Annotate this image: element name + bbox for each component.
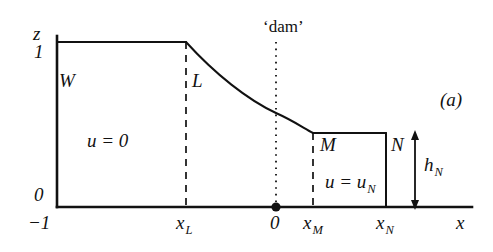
x-M-tick-label: xM: [303, 213, 323, 236]
x-L-tick-subscript: L: [184, 223, 192, 237]
point-label-N: N: [391, 135, 404, 154]
h-N-arrowhead-up-icon: [411, 130, 419, 140]
point-label-W: W: [59, 71, 75, 90]
velocity-zero-annotation: u = 0: [87, 131, 128, 150]
x-N-tick-subscript: N: [384, 223, 393, 237]
x-axis-label: x: [456, 213, 464, 232]
x-tick-label-zero: 0: [270, 213, 280, 232]
point-label-L: L: [192, 71, 203, 90]
panel-label: (a): [440, 90, 462, 109]
depth-hN-label: hN: [424, 155, 443, 178]
x-L-tick-label: xL: [176, 213, 192, 236]
x-tick-label-minus-one: −1: [28, 213, 50, 232]
h-N-arrowhead-down-icon: [411, 200, 419, 210]
velocity-uN-subscript: N: [366, 182, 375, 196]
velocity-uN-base: u = u: [325, 171, 366, 192]
point-label-M: M: [320, 135, 336, 154]
depth-hN-subscript: N: [434, 165, 443, 179]
velocity-uN-annotation: u = uN: [325, 172, 376, 195]
z-tick-label-zero: 0: [34, 185, 44, 204]
x-N-tick-label: xN: [376, 213, 394, 236]
depth-hN-base: h: [424, 154, 434, 175]
origin-point-marker: [271, 202, 280, 211]
figure-drawing-canvas: [0, 0, 493, 252]
rarefaction-curve-segment: [186, 42, 313, 133]
dam-annotation-label: ‘dam’: [263, 18, 304, 35]
x-M-tick-subscript: M: [311, 223, 322, 237]
z-tick-label-one: 1: [34, 42, 44, 61]
dam-break-schematic-figure: z 1 0 −1 0 x xL xM xN W L M N ‘dam’ u = …: [0, 0, 493, 252]
